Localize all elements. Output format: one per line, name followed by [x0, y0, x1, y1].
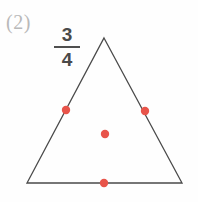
- interior-point-marker: [101, 130, 109, 138]
- triangle-outline: [27, 38, 182, 183]
- marker-dot-group: [62, 106, 149, 187]
- figure-canvas: (2) 3 4: [0, 0, 198, 202]
- triangle-figure: [0, 0, 198, 202]
